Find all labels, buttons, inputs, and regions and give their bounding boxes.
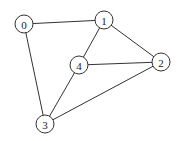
node-label: 2 xyxy=(158,57,164,69)
node-0: 0 xyxy=(15,15,33,33)
node-4: 4 xyxy=(70,56,88,74)
node-label: 1 xyxy=(101,15,107,27)
node-1: 1 xyxy=(95,11,113,29)
edge-0-1 xyxy=(24,20,104,24)
node-label: 4 xyxy=(76,60,82,72)
graph-diagram: 01234 xyxy=(0,0,185,141)
nodes: 01234 xyxy=(15,11,170,133)
node-3: 3 xyxy=(36,115,54,133)
edge-1-2 xyxy=(104,20,161,62)
edge-0-3 xyxy=(24,24,45,124)
edges xyxy=(24,20,161,124)
edge-4-2 xyxy=(79,62,161,65)
node-label: 0 xyxy=(21,19,27,31)
node-2: 2 xyxy=(152,53,170,71)
node-label: 3 xyxy=(42,119,48,131)
